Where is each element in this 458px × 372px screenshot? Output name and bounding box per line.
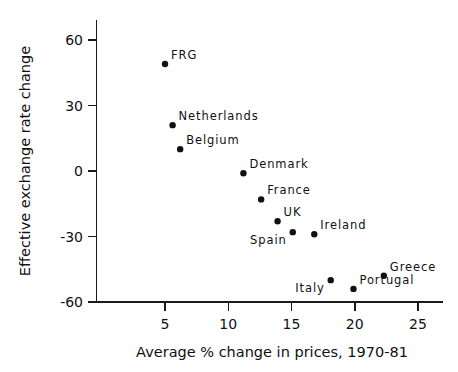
data-point-marker[interactable] xyxy=(350,286,356,292)
y-tick-label: 0 xyxy=(74,163,83,179)
data-point-marker[interactable] xyxy=(381,273,387,279)
x-tick-label: 20 xyxy=(346,316,364,332)
y-tick-label: 60 xyxy=(65,32,83,48)
data-point-label: Denmark xyxy=(249,157,308,171)
data-point-marker[interactable] xyxy=(177,146,183,152)
data-point-label: Ireland xyxy=(320,218,366,232)
plot-canvas: 60300-30-60 510152025 FRGNetherlandsBelg… xyxy=(0,0,458,372)
data-point-label: Belgium xyxy=(186,133,239,147)
data-point-marker[interactable] xyxy=(274,218,280,224)
x-tick-label: 15 xyxy=(283,316,301,332)
x-tick-label: 25 xyxy=(409,316,427,332)
y-tick-label: -60 xyxy=(60,294,83,310)
data-point-label: Greece xyxy=(390,260,436,274)
data-point-marker[interactable] xyxy=(258,196,264,202)
data-point-group: FRGNetherlandsBelgiumDenmarkFranceUKSpai… xyxy=(162,48,436,295)
scatter-chart-figure: 60300-30-60 510152025 FRGNetherlandsBelg… xyxy=(0,0,458,372)
data-point-label: France xyxy=(267,183,311,197)
data-point-label: FRG xyxy=(171,48,197,62)
y-tick-label: 30 xyxy=(65,98,83,114)
data-point-marker[interactable] xyxy=(311,231,317,237)
data-point-label: UK xyxy=(284,205,302,219)
data-point-marker[interactable] xyxy=(290,229,296,235)
data-point-label: Netherlands xyxy=(179,109,259,123)
y-tick-label: -30 xyxy=(60,229,83,245)
data-point-label: Spain xyxy=(250,233,287,247)
y-axis-title: Effective exchange rate change xyxy=(17,46,33,276)
data-point-marker[interactable] xyxy=(162,61,168,67)
data-point-marker[interactable] xyxy=(169,122,175,128)
x-tick-label: 10 xyxy=(219,316,237,332)
x-axis-ticks: 510152025 xyxy=(161,302,427,332)
x-tick-label: 5 xyxy=(161,316,170,332)
data-point-marker[interactable] xyxy=(328,277,334,283)
x-axis-title: Average % change in prices, 1970-81 xyxy=(136,344,408,360)
data-point-label: Italy xyxy=(295,281,324,295)
data-point-marker[interactable] xyxy=(240,170,246,176)
y-axis-ticks: 60300-30-60 xyxy=(60,32,96,310)
